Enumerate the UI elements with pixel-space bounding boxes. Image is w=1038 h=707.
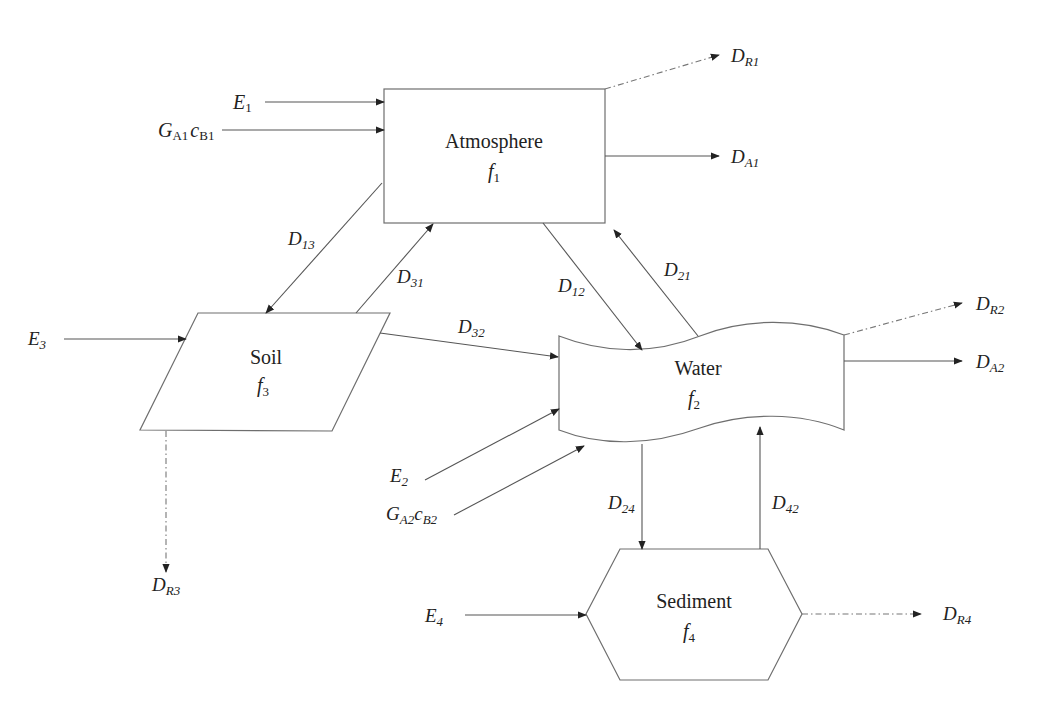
diagram-svg: Atmosphere f1 Soil f3 Water f2 Sediment … (0, 0, 1038, 707)
soil-label: Soil (250, 346, 283, 368)
e3-label: E3 (27, 328, 47, 352)
dr1-arrow (605, 55, 719, 89)
d31-arrow (356, 224, 433, 313)
dr4-label: DR4 (942, 603, 972, 627)
d24-label: D24 (607, 492, 635, 516)
e2-label: E2 (389, 465, 409, 489)
atmosphere-box (384, 89, 605, 223)
soil-parallelogram (140, 313, 390, 431)
ga2cb2-label: GA2cB2 (386, 503, 438, 527)
e4-label: E4 (424, 605, 444, 629)
d31-label: D31 (396, 266, 424, 290)
da2-label: DA2 (975, 351, 1005, 375)
dr2-label: DR2 (975, 293, 1005, 317)
d21-label: D21 (663, 259, 691, 283)
sediment-hexagon (586, 549, 802, 680)
sediment-label: Sediment (656, 590, 732, 612)
dr1-label: DR1 (730, 45, 759, 69)
atmosphere-label: Atmosphere (445, 130, 543, 153)
e1-label: E1 (232, 91, 252, 115)
d42-label: D42 (771, 492, 799, 516)
water-wave-shape (559, 322, 844, 441)
d12-label: D12 (557, 275, 585, 299)
d32-label: D32 (457, 316, 485, 340)
dr2-arrow (844, 303, 962, 335)
dr3-label: DR3 (151, 574, 181, 598)
ga1cb1-label: GA1cB1 (158, 119, 214, 143)
d13-arrow (266, 183, 382, 313)
ga2cb2-arrow (454, 446, 584, 515)
da1-label: DA1 (730, 146, 759, 170)
d13-label: D13 (287, 228, 315, 252)
fugacity-model-diagram: Atmosphere f1 Soil f3 Water f2 Sediment … (0, 0, 1038, 707)
water-label: Water (674, 357, 722, 379)
d21-arrow (614, 230, 698, 336)
